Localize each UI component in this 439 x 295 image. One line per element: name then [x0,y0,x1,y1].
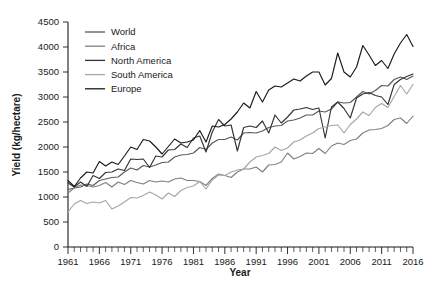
x-axis-tick-labels: 1961196619711976198119861991199620012006… [57,256,423,267]
x-tick-label: 1976 [152,256,173,267]
x-axis-title: Year [229,267,250,278]
series-line-south-america [68,85,413,213]
line-chart-figure: 050010001500200025003000350040004500 196… [0,0,439,295]
legend-label-africa: Africa [111,41,136,52]
y-tick-label: 1000 [38,191,59,202]
y-axis-tick-labels: 050010001500200025003000350040004500 [38,16,59,252]
x-tick-label: 2016 [402,256,423,267]
y-axis-group: 050010001500200025003000350040004500 [38,16,68,252]
y-axis-ticks [63,22,68,247]
legend-label-south-america: South America [111,69,173,80]
x-axis-minor-ticks [68,247,413,254]
chart-canvas: 050010001500200025003000350040004500 196… [0,0,439,295]
x-tick-label: 1981 [183,256,204,267]
y-tick-label: 2500 [38,116,59,127]
series-line-africa [68,116,413,193]
y-tick-label: 4500 [38,16,59,27]
y-tick-label: 1500 [38,166,59,177]
x-tick-label: 1971 [120,256,141,267]
y-tick-label: 500 [43,216,59,227]
x-tick-label: 1996 [277,256,298,267]
x-tick-label: 2011 [371,256,391,267]
x-tick-label: 1986 [214,256,235,267]
y-axis-title: Yield (kg/hectare) [11,94,22,177]
y-tick-label: 2000 [38,141,59,152]
legend-label-europe: Europe [111,83,142,94]
legend-label-north-america: North America [111,55,172,66]
y-tick-label: 0 [54,241,59,252]
x-axis-group: 1961196619711976198119861991199620012006… [57,247,423,267]
x-tick-label: 1961 [57,256,78,267]
legend-label-world: World [111,26,136,37]
y-tick-label: 3500 [38,66,59,77]
x-tick-label: 2001 [308,256,329,267]
chart-legend: WorldAfricaNorth AmericaSouth AmericaEur… [85,26,173,94]
y-tick-label: 4000 [38,41,59,52]
x-tick-label: 2006 [340,256,361,267]
x-tick-label: 1991 [246,256,267,267]
y-tick-label: 3000 [38,91,59,102]
x-tick-label: 1966 [89,256,110,267]
